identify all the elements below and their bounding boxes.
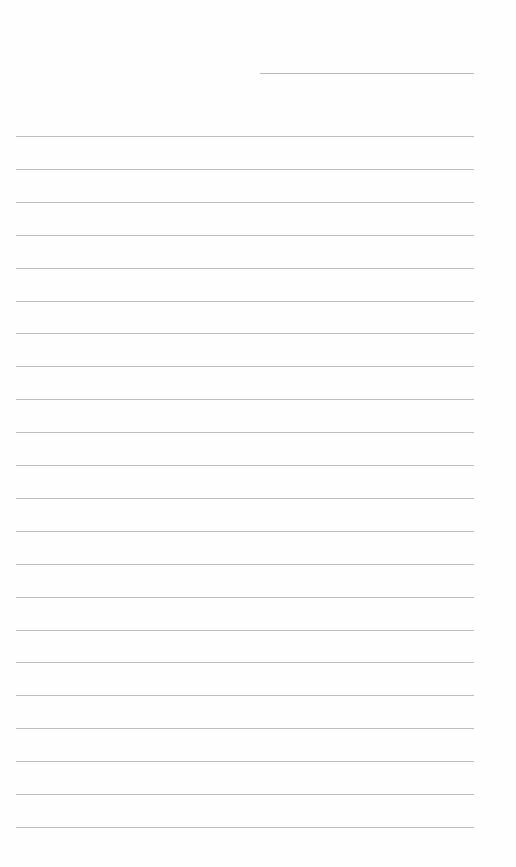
header-name-line: [260, 73, 474, 74]
ruled-line: [16, 794, 474, 795]
ruled-line: [16, 531, 474, 532]
ruled-line: [16, 695, 474, 696]
ruled-line: [16, 399, 474, 400]
ruled-line: [16, 564, 474, 565]
ruled-line: [16, 136, 474, 137]
ruled-line: [16, 827, 474, 828]
ruled-line: [16, 169, 474, 170]
ruled-line: [16, 662, 474, 663]
ruled-line: [16, 268, 474, 269]
ruled-line: [16, 761, 474, 762]
ruled-line: [16, 597, 474, 598]
ruled-line: [16, 630, 474, 631]
ruled-line: [16, 202, 474, 203]
ruled-line: [16, 235, 474, 236]
ruled-line: [16, 498, 474, 499]
ruled-line: [16, 728, 474, 729]
ruled-line: [16, 333, 474, 334]
ruled-line: [16, 301, 474, 302]
ruled-line: [16, 366, 474, 367]
ruled-line: [16, 432, 474, 433]
lined-paper-page: [0, 0, 516, 867]
ruled-line: [16, 465, 474, 466]
